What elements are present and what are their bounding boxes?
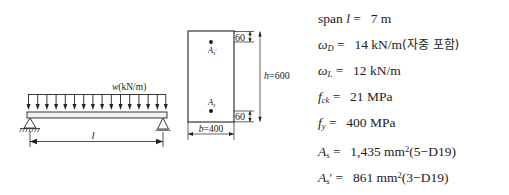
bottom-cover-label: 60 (235, 111, 245, 122)
span-dimension (30, 131, 163, 147)
as-prime-note: (3−D19) (402, 170, 449, 185)
fck-unit: MPa (367, 89, 393, 104)
data-line-as-prime: As′ = 861 mm2(3−D19) (318, 162, 509, 188)
load-label: w(kN/m) (112, 82, 146, 93)
span-dimension-label: l (91, 129, 94, 141)
as-prime-value: 861 (353, 170, 373, 185)
omega-l-eq: = (336, 63, 344, 78)
span-symbol: l (346, 11, 350, 26)
given-data-list: span l = 7 m ωD = 14 kN/m(자중 포함) ωL = 12… (318, 6, 509, 188)
height-dimension (258, 32, 261, 122)
as-symbol: A (318, 144, 326, 159)
cross-section-svg: As′ As 60 (182, 0, 302, 195)
omega-d-value: 14 (354, 37, 368, 52)
omega-l-symbol: ω (318, 63, 328, 78)
data-line-span: span l = 7 m (318, 6, 509, 32)
fck-value: 21 (350, 89, 364, 104)
omega-d-eq: = (337, 37, 345, 52)
load-arrowheads (27, 104, 168, 110)
beam-elevation-diagram: w(kN/m) (0, 0, 182, 195)
omega-d-symbol: ω (318, 37, 328, 52)
span-eq: = (353, 11, 361, 26)
width-label: b=400 (199, 124, 224, 134)
distributed-load-group (27, 95, 168, 111)
load-label-units: (kN/m) (118, 82, 146, 93)
given-data-panel: span l = 7 m ωD = 14 kN/m(자중 포함) ωL = 12… (302, 0, 509, 195)
data-line-fck: fck = 21 MPa (318, 84, 509, 110)
left-support-pinned (20, 118, 41, 132)
fy-unit: MPa (370, 115, 396, 130)
omega-l-subscript: L (328, 69, 333, 79)
as-prime-symbol: A (318, 170, 326, 185)
cross-section-diagram: As′ As 60 (182, 0, 302, 195)
top-rebar-dot (209, 40, 213, 44)
omega-l-unit: kN/m (370, 63, 401, 78)
as-eq: = (333, 144, 341, 159)
data-line-as: As = 1,435 mm2(5−D19) (318, 136, 509, 162)
beam-member (27, 112, 167, 118)
omega-l-value: 12 (353, 63, 367, 78)
fy-eq: = (329, 115, 337, 130)
span-unit: m (381, 11, 392, 26)
omega-d-subscript: D (328, 43, 334, 53)
bottom-rebar-dot (209, 109, 213, 113)
as-subscript: s (326, 150, 329, 160)
fck-subscript: ck (322, 95, 330, 105)
top-rebar-label: As′ (207, 45, 217, 56)
span-value: 7 (371, 11, 378, 26)
height-label: h=600 (264, 70, 290, 81)
fck-eq: = (333, 89, 341, 104)
as-value: 1,435 (350, 144, 380, 159)
as-unit: mm (384, 144, 405, 159)
data-line-omega-d: ωD = 14 kN/m(자중 포함) (318, 32, 509, 58)
span-prefix: span (318, 11, 343, 26)
right-support-roller (156, 118, 171, 130)
data-line-omega-l: ωL = 12 kN/m (318, 58, 509, 84)
fy-value: 400 (346, 115, 366, 130)
data-line-fy: fy = 400 MPa (318, 110, 509, 136)
fy-subscript: y (322, 121, 326, 131)
load-arrows (29, 95, 166, 106)
as-prime-eq: = (336, 170, 344, 185)
as-prime-mark: ′ (330, 171, 333, 185)
figure-root: w(kN/m) (0, 0, 509, 195)
beam-elevation-svg: w(kN/m) (0, 0, 182, 195)
omega-d-unit: kN/m (371, 37, 402, 52)
as-note: (5−D19) (409, 144, 456, 159)
omega-d-note: (자중 포함) (402, 38, 459, 52)
top-cover-label: 60 (235, 32, 245, 43)
as-prime-unit: mm (377, 170, 398, 185)
